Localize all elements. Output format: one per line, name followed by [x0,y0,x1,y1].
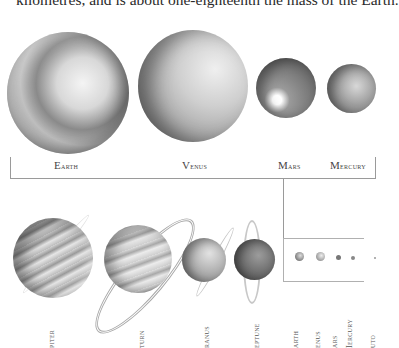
scale-venus-dot [316,252,325,261]
mercury-illustration [327,64,376,113]
neptune-illustration [234,239,275,280]
label-scale-mars: ars [330,335,339,348]
label-scale-mercury: Iercury [345,319,354,348]
label-mars: Mars [278,159,301,171]
jupiter-illustration [13,218,93,298]
scale-earth-dot [295,252,304,261]
saturn-illustration [104,225,172,293]
label-scale-pluto: uto [368,335,377,348]
bracket-right-vertical [375,157,376,179]
scale-comparison-box [283,238,364,282]
label-uranus: ranus [202,326,211,348]
label-saturn: turn [137,330,146,348]
label-earth: Earth [54,159,78,171]
body-text-caption: kilometres, and is about one-eighteenth … [16,0,396,9]
venus-illustration [138,30,248,142]
bracket-connector-vertical [283,178,284,238]
bracket-left-vertical [10,157,11,179]
label-jupiter: piter [47,330,56,348]
label-venus: Venus [182,159,207,171]
scale-mercury-dot [351,256,355,260]
scale-pluto-dot [374,257,376,259]
uranus-illustration [182,238,226,282]
bracket-bottom-horizontal [10,178,376,179]
label-neptune: eptune [252,323,261,348]
label-scale-venus: enus [313,331,322,348]
scale-mars-dot [336,255,341,260]
label-mercury: Mercury [330,159,366,171]
earth-illustration [7,32,129,154]
mars-illustration [256,58,316,118]
label-scale-earth: arth [291,331,300,348]
